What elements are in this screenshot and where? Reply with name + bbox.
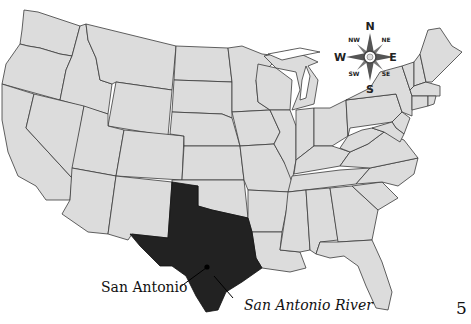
- us-map: N S W E NW NE SW SE: [0, 0, 471, 324]
- compass-ne: NE: [381, 36, 390, 43]
- state-rhode-island: [428, 96, 436, 106]
- compass-w: W: [334, 51, 346, 64]
- san-antonio-label: San Antonio: [101, 279, 188, 295]
- state-maine: [420, 28, 462, 82]
- state-north-dakota: [174, 46, 232, 82]
- page-number: 5: [456, 298, 467, 318]
- state-new-mexico: [108, 176, 172, 240]
- compass-nw: NW: [348, 36, 360, 43]
- compass-se: SE: [382, 70, 390, 77]
- compass-e: E: [389, 51, 397, 64]
- state-ohio: [314, 100, 348, 146]
- state-wisconsin: [256, 64, 292, 110]
- compass-n: N: [365, 20, 374, 33]
- state-kansas: [182, 146, 244, 180]
- compass-s: S: [366, 83, 374, 96]
- compass-sw: SW: [349, 70, 360, 77]
- san-antonio-river-label: San Antonio River: [244, 297, 373, 313]
- state-colorado: [116, 130, 184, 180]
- state-wyoming: [108, 82, 172, 136]
- state-connecticut: [412, 96, 428, 110]
